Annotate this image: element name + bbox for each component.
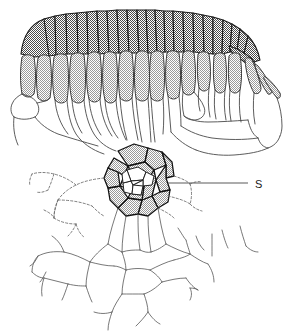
figure-root: S	[0, 0, 304, 336]
label-s: S	[255, 178, 263, 190]
histology-drawing: S	[0, 0, 304, 336]
